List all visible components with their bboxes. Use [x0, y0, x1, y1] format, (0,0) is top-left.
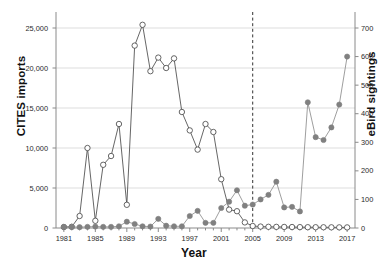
- x-tick-label: 1997: [174, 234, 206, 243]
- data-point: [344, 225, 349, 230]
- data-point: [242, 203, 247, 208]
- data-point: [345, 54, 350, 59]
- data-point: [313, 225, 318, 230]
- data-point: [321, 137, 326, 142]
- y-tick-label-left: 20,000: [0, 64, 48, 73]
- x-tick-label: 2005: [237, 234, 269, 243]
- data-point: [124, 219, 129, 224]
- plot-area: [56, 16, 355, 228]
- data-point: [289, 204, 294, 209]
- data-point: [179, 109, 184, 114]
- data-point: [140, 224, 145, 229]
- data-point: [61, 224, 66, 229]
- data-point: [282, 205, 287, 210]
- data-point: [124, 202, 129, 207]
- x-tick-label: 2001: [205, 234, 237, 243]
- data-point: [226, 207, 231, 212]
- data-point: [101, 224, 106, 229]
- data-point: [187, 213, 192, 218]
- y-tick-label-right: 200: [361, 166, 388, 175]
- data-point: [164, 223, 169, 228]
- data-point: [211, 129, 216, 134]
- data-point: [108, 224, 113, 229]
- y-tick-label-right: 100: [361, 195, 388, 204]
- chart-figure: CITES imports eBird sightings Year 05,00…: [0, 0, 388, 263]
- data-point: [171, 56, 176, 61]
- data-point: [203, 121, 208, 126]
- data-point: [242, 220, 247, 225]
- data-point: [148, 69, 153, 74]
- data-point: [77, 225, 82, 230]
- data-point: [163, 65, 168, 70]
- data-point: [85, 224, 90, 229]
- y-tick-label-left: 0: [0, 224, 48, 233]
- data-point: [69, 224, 74, 229]
- y-tick-label-left: 25,000: [0, 24, 48, 33]
- y-tick-label-right: 400: [361, 109, 388, 118]
- data-point: [281, 224, 286, 229]
- y-tick-label-right: 0: [361, 224, 388, 233]
- data-point: [187, 128, 192, 133]
- data-point: [93, 218, 98, 223]
- x-tick-label: 1981: [48, 234, 80, 243]
- data-point: [274, 179, 279, 184]
- data-point: [266, 224, 271, 229]
- data-point: [108, 153, 113, 158]
- data-point: [85, 145, 90, 150]
- data-point: [329, 225, 334, 230]
- data-point: [148, 224, 153, 229]
- data-point: [132, 43, 137, 48]
- data-point: [93, 224, 98, 229]
- data-point: [234, 188, 239, 193]
- data-point: [337, 225, 342, 230]
- x-tick-label: 1989: [111, 234, 143, 243]
- data-point: [195, 147, 200, 152]
- data-point: [227, 199, 232, 204]
- data-point: [329, 125, 334, 130]
- y-tick-label-right: 500: [361, 81, 388, 90]
- data-point: [289, 224, 294, 229]
- data-point: [297, 209, 302, 214]
- data-point: [132, 221, 137, 226]
- data-point: [258, 224, 263, 229]
- data-point: [234, 209, 239, 214]
- x-tick-label: 2017: [331, 234, 363, 243]
- y-tick-label-left: 15,000: [0, 104, 48, 113]
- x-tick-label: 2013: [300, 234, 332, 243]
- y-tick-label-right: 300: [361, 138, 388, 147]
- data-point: [77, 213, 82, 218]
- data-point: [337, 102, 342, 107]
- data-point: [250, 202, 255, 207]
- data-point: [274, 224, 279, 229]
- x-axis-title: Year: [0, 246, 388, 260]
- x-tick-label: 1985: [79, 234, 111, 243]
- data-point: [156, 216, 161, 221]
- y-tick-label-left: 5,000: [0, 184, 48, 193]
- x-tick-label: 2009: [268, 234, 300, 243]
- series-ebird-sightings: [61, 54, 349, 230]
- data-point: [219, 177, 224, 182]
- y-tick-label-right: 700: [361, 24, 388, 33]
- data-point: [266, 192, 271, 197]
- series-cites-imports: [61, 22, 350, 230]
- data-point: [297, 224, 302, 229]
- y-tick-label-left: 10,000: [0, 144, 48, 153]
- data-point: [219, 205, 224, 210]
- data-point: [258, 197, 263, 202]
- data-point: [305, 100, 310, 105]
- data-point: [211, 220, 216, 225]
- data-point: [321, 225, 326, 230]
- data-point: [195, 208, 200, 213]
- data-point: [116, 121, 121, 126]
- data-point: [140, 22, 145, 27]
- data-point: [116, 224, 121, 229]
- data-point: [171, 224, 176, 229]
- data-point: [156, 55, 161, 60]
- data-point: [250, 223, 255, 228]
- data-point: [203, 220, 208, 225]
- data-point: [313, 135, 318, 140]
- y-tick-label-right: 600: [361, 52, 388, 61]
- data-point: [305, 225, 310, 230]
- data-point: [179, 224, 184, 229]
- data-point: [101, 162, 106, 167]
